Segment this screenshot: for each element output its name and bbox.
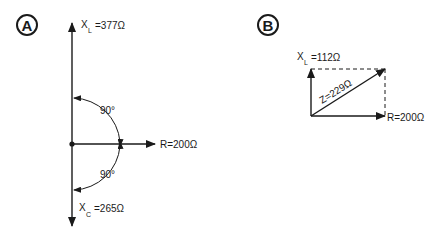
svg-text:=265Ω: =265Ω [94, 203, 125, 214]
svg-text:L: L [88, 27, 92, 34]
diagram-b: B X L =112Ω Z=229Ω R=200Ω [258, 15, 425, 123]
xc-label-a: X C =265Ω [79, 202, 125, 218]
panel-a-badge: A [17, 15, 37, 35]
panel-b-badge: B [258, 15, 278, 35]
xl-label-a: X L =377Ω [81, 19, 126, 34]
phasor-diagrams: A 90° 90° X L =377Ω R=200Ω X C =265Ω [0, 0, 439, 234]
svg-text:X: X [297, 51, 304, 62]
panel-a-label: A [22, 17, 33, 34]
r-label-b: R=200Ω [387, 112, 425, 123]
angle-arc-bottom [74, 146, 120, 190]
r-label-a: R=200Ω [160, 139, 198, 150]
svg-text:X: X [81, 19, 88, 30]
diagram-a: A 90° 90° X L =377Ω R=200Ω X C =265Ω [17, 15, 198, 226]
xl-label-b: X L =112Ω [297, 51, 341, 66]
svg-text:C: C [86, 211, 91, 218]
angle-bottom-label: 90° [100, 169, 115, 180]
origin-dot [69, 141, 74, 146]
angle-top-label: 90° [100, 105, 115, 116]
panel-b-label: B [263, 17, 274, 34]
svg-text:=377Ω: =377Ω [95, 20, 126, 31]
svg-text:L: L [304, 59, 308, 66]
svg-text:X: X [79, 202, 86, 213]
svg-text:=112Ω: =112Ω [311, 52, 341, 63]
